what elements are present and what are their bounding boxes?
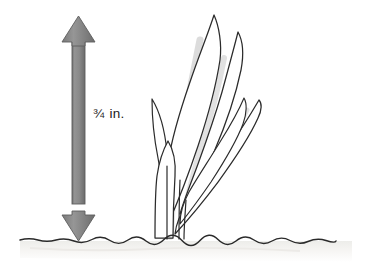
dimension-value: ¾ bbox=[93, 106, 104, 121]
dimension-unit: in. bbox=[109, 106, 124, 121]
double-headed-vertical-dimension-arrow bbox=[62, 16, 95, 241]
dimension-label: ¾in. bbox=[93, 106, 124, 121]
plant-height-diagram: ¾in. bbox=[0, 0, 375, 270]
arrow-shaft bbox=[72, 38, 85, 204]
seedling-plant bbox=[152, 15, 261, 239]
diagram-canvas bbox=[0, 0, 375, 270]
arrow-head-down bbox=[62, 211, 95, 241]
arrow-head-up bbox=[62, 16, 95, 46]
